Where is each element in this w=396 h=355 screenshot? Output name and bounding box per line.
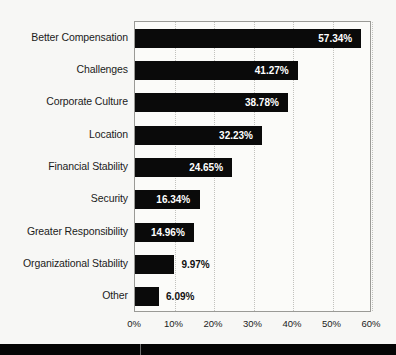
value-axis: 0%10%20%30%40%50%60% <box>0 315 396 331</box>
category-label: Security <box>0 192 128 204</box>
bar-value-label: 9.97% <box>181 255 209 274</box>
bottom-band-divider <box>140 344 141 355</box>
gridline-50pct <box>333 22 334 311</box>
bar-value-label: 38.78% <box>245 93 279 112</box>
category-axis: Better CompensationChallengesCorporate C… <box>0 21 128 312</box>
x-tick-label: 30% <box>243 318 262 329</box>
x-tick-label: 0% <box>127 318 141 329</box>
bar-value-label: 57.34% <box>318 29 352 48</box>
bar-chart-figure: Better CompensationChallengesCorporate C… <box>0 0 396 355</box>
bar-value-label: 14.96% <box>151 223 185 242</box>
x-tick-label: 60% <box>361 318 380 329</box>
bar-value-label: 24.65% <box>189 158 223 177</box>
gridline-60pct <box>372 22 373 311</box>
bar <box>135 255 174 274</box>
bar-value-label: 6.09% <box>166 287 194 306</box>
bar-value-label: 32.23% <box>219 126 253 145</box>
category-label: Better Compensation <box>0 31 128 43</box>
bar <box>135 287 159 306</box>
category-label: Challenges <box>0 63 128 75</box>
category-label: Financial Stability <box>0 160 128 172</box>
x-tick-label: 20% <box>203 318 222 329</box>
bottom-decorative-band <box>0 344 396 355</box>
category-label: Location <box>0 128 128 140</box>
x-tick-label: 10% <box>164 318 183 329</box>
category-label: Greater Responsibility <box>0 225 128 237</box>
category-label: Corporate Culture <box>0 95 128 107</box>
bar-value-label: 16.34% <box>156 190 190 209</box>
x-tick-label: 40% <box>282 318 301 329</box>
bar-value-label: 41.27% <box>255 61 289 80</box>
category-label: Organizational Stability <box>0 257 128 269</box>
category-label: Other <box>0 289 128 301</box>
x-tick-label: 50% <box>322 318 341 329</box>
plot-area: 57.34%41.27%38.78%32.23%24.65%16.34%14.9… <box>134 21 371 312</box>
